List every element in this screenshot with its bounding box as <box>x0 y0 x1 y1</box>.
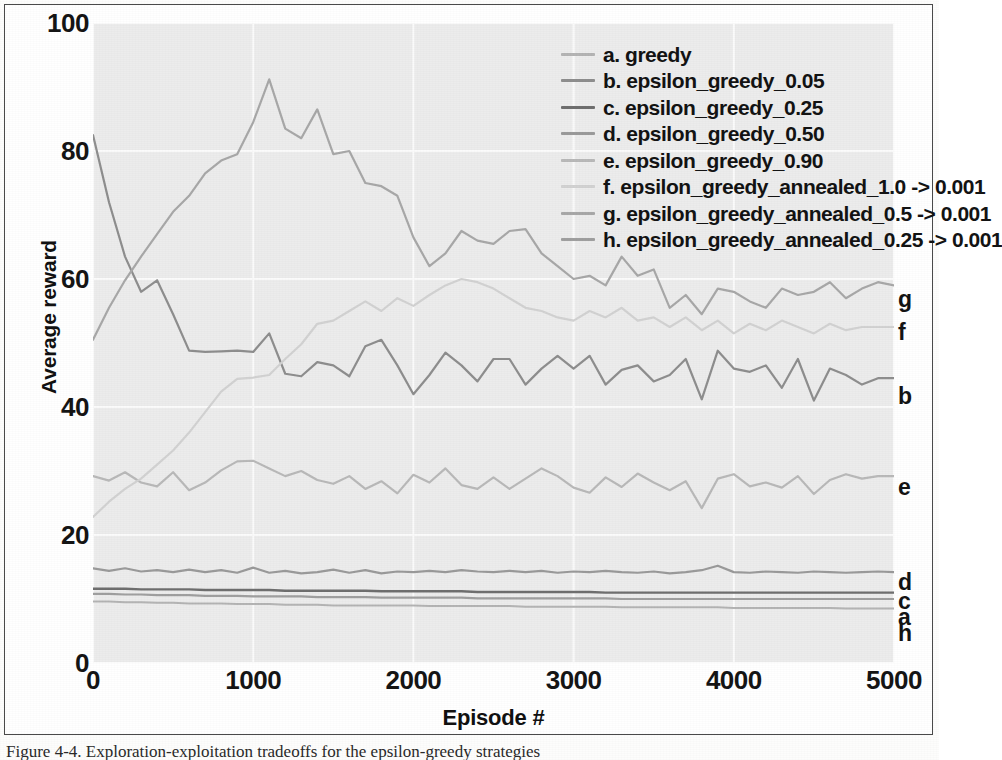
series-end-label-f: f <box>898 321 905 344</box>
x-tick-label: 2000 <box>385 667 441 693</box>
legend-swatch-icon <box>561 238 595 241</box>
series-line-h <box>93 594 894 599</box>
figure-caption: Figure 4-4. Exploration-exploitation tra… <box>6 741 926 760</box>
legend-label: h. epsilon_greedy_annealed_0.25 -> 0.001 <box>603 229 1002 250</box>
y-tick-label: 80 <box>11 138 89 164</box>
legend-swatch-icon <box>561 159 595 162</box>
legend-swatch-icon <box>561 212 595 215</box>
legend-swatch-icon <box>561 53 595 56</box>
series-end-label-e: e <box>898 476 911 499</box>
series-end-labels: gfbedcah <box>898 5 938 705</box>
legend-swatch-icon <box>561 185 595 188</box>
y-tick-label: 20 <box>11 522 89 548</box>
legend-swatch-icon <box>561 106 595 109</box>
x-axis-title: Episode # <box>93 705 894 731</box>
series-line-e <box>93 461 894 508</box>
x-tick-label: 3000 <box>546 667 602 693</box>
series-line-c <box>93 589 894 593</box>
x-axis-tick-labels: 010002000300040005000 <box>93 667 894 707</box>
series-end-label-b: b <box>898 385 912 408</box>
legend-label: a. greedy <box>603 44 691 65</box>
x-tick-label: 0 <box>86 667 100 693</box>
legend-swatch-icon <box>561 79 595 82</box>
legend-label: d. epsilon_greedy_0.50 <box>603 123 824 144</box>
y-axis-title: Average reward <box>37 217 61 417</box>
x-tick-label: 1000 <box>225 667 281 693</box>
series-line-d <box>93 566 894 574</box>
series-end-label-h: h <box>898 622 912 645</box>
legend-label: b. epsilon_greedy_0.05 <box>603 70 824 91</box>
series-line-a <box>93 602 894 609</box>
series-line-f <box>93 279 894 517</box>
legend-label: c. epsilon_greedy_0.25 <box>603 97 823 118</box>
x-tick-label: 4000 <box>706 667 762 693</box>
figure-frame: 020406080100 Average reward 010002000300… <box>4 4 933 735</box>
series-end-label-g: g <box>898 288 912 311</box>
legend-swatch-icon <box>561 132 595 135</box>
legend-label: e. epsilon_greedy_0.90 <box>603 150 823 171</box>
y-tick-label: 0 <box>11 650 89 676</box>
y-tick-label: 100 <box>11 10 89 36</box>
